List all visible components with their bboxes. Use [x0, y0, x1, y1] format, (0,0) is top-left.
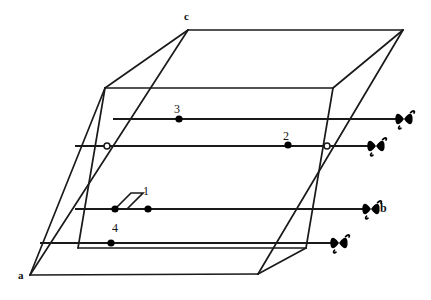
arrowhead-b	[362, 201, 381, 219]
edge-left-top-to-c	[105, 30, 188, 88]
right-angle-marker	[115, 193, 143, 209]
solid-point-markers	[107, 115, 291, 246]
point-4-label: 4	[112, 222, 118, 234]
edge-a-to-left-top	[30, 88, 105, 275]
point-3-dot	[175, 115, 182, 122]
c-label: c	[184, 11, 189, 22]
figure-canvas: acb1234	[0, 0, 431, 300]
right-angle-vertex-dot	[111, 205, 118, 212]
point-1-dot	[144, 205, 151, 212]
point-1-label: 1	[143, 185, 149, 197]
arrowhead-2	[367, 138, 386, 156]
a-label: a	[18, 270, 24, 281]
edge-a-to-bottom-right	[30, 274, 258, 275]
ray-lines	[40, 119, 398, 243]
point-3-label: 3	[174, 103, 180, 115]
edge-a-to-c	[30, 30, 188, 275]
edge-mid-to-top-right	[333, 30, 403, 88]
point-2-label: 2	[283, 130, 289, 142]
geometry-diagram	[0, 0, 431, 300]
arrowhead-4	[330, 235, 349, 253]
hollow-marker-left	[104, 143, 110, 149]
right-angle-marker-group	[115, 193, 143, 209]
parallelepiped-edges	[30, 30, 403, 275]
arrowhead-3	[395, 111, 414, 129]
edge-front-right-slant	[306, 88, 333, 248]
point-4-dot	[107, 239, 114, 246]
b-label: b	[380, 202, 387, 214]
edge-bottom-right-up	[258, 30, 403, 274]
edge-front-left-slant	[78, 88, 105, 248]
hollow-marker-right	[324, 143, 330, 149]
